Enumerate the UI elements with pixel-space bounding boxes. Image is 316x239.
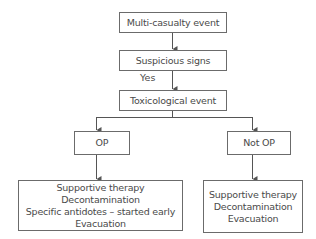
node-label: Multi-casualty event: [127, 17, 220, 29]
node-not-op-actions: Supportive therapy Decontamination Evacu…: [203, 180, 303, 233]
node-suspicious-signs: Suspicious signs: [119, 50, 227, 71]
node-label: OP: [96, 137, 109, 149]
edge-label-yes: Yes: [140, 72, 155, 83]
action-line: Decontamination: [61, 194, 140, 206]
node-op-actions: Supportive therapy Decontamination Speci…: [18, 180, 183, 231]
node-op: OP: [74, 131, 130, 155]
action-line: Decontamination: [214, 201, 293, 213]
node-toxicological-event: Toxicological event: [119, 90, 227, 111]
node-multi-casualty-event: Multi-casualty event: [119, 12, 227, 33]
action-line: Specific antidotes – started early: [26, 206, 175, 218]
node-label: Toxicological event: [130, 95, 216, 107]
node-label: Suspicious signs: [136, 55, 211, 67]
action-line: Supportive therapy: [56, 182, 144, 194]
action-line: Evacuation: [228, 213, 279, 225]
node-not-op: Not OP: [227, 131, 291, 155]
action-line: Evacuation: [75, 218, 126, 230]
action-line: Supportive therapy: [209, 189, 297, 201]
node-label: Not OP: [243, 137, 275, 149]
